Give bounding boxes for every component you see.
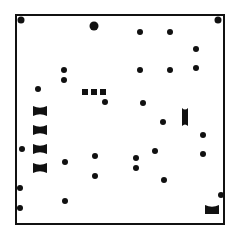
dot-piece[interactable] [193,46,199,52]
square-piece[interactable] [91,89,97,95]
dot-piece[interactable] [133,155,139,161]
dot-piece[interactable] [18,17,25,24]
square-piece[interactable] [82,89,88,95]
square-piece[interactable] [100,89,106,95]
dot-piece[interactable] [200,151,206,157]
dot-piece[interactable] [17,205,23,211]
bone-piece[interactable] [33,144,47,154]
tray-piece[interactable] [205,205,219,214]
dot-piece[interactable] [152,148,158,154]
dot-piece[interactable] [193,65,199,71]
dot-piece[interactable] [133,165,139,171]
dot-piece[interactable] [62,198,68,204]
dot-piece[interactable] [167,67,173,73]
dot-piece[interactable] [35,86,41,92]
dot-piece[interactable] [200,132,206,138]
dot-piece[interactable] [137,29,143,35]
dot-piece[interactable] [92,153,98,159]
dot-piece[interactable] [140,100,146,106]
bone-piece[interactable] [33,163,47,173]
dot-piece[interactable] [92,173,98,179]
dot-piece[interactable] [90,22,99,31]
dot-piece[interactable] [61,67,67,73]
dot-piece[interactable] [167,29,173,35]
dot-piece[interactable] [102,99,108,105]
dot-piece[interactable] [137,67,143,73]
bone-piece[interactable] [33,106,47,116]
dot-piece[interactable] [62,159,68,165]
bone-piece-vertical[interactable] [182,108,188,126]
dot-piece[interactable] [161,177,167,183]
bone-piece[interactable] [33,125,47,135]
dot-piece[interactable] [215,17,222,24]
dot-piece[interactable] [61,77,67,83]
dot-piece[interactable] [160,119,166,125]
dot-piece[interactable] [17,185,23,191]
dot-piece[interactable] [19,146,25,152]
dot-piece[interactable] [218,192,224,198]
